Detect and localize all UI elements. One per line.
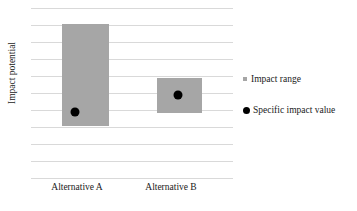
legend-item-specific-impact-value: Specific impact value (243, 105, 357, 115)
gridline (31, 127, 233, 128)
gridline (31, 178, 233, 179)
impact-range-bar (62, 24, 109, 126)
legend-item-label: Specific impact value (253, 105, 335, 115)
legend-item-label: Impact range (251, 74, 301, 84)
specific-impact-value-marker-icon (243, 107, 250, 114)
gridline (31, 144, 233, 145)
specific-impact-value-point (174, 91, 183, 100)
x-axis-tick-label: Alternative A (29, 182, 125, 192)
specific-impact-value-point (71, 108, 80, 117)
chart-figure: Impact potential Alternative AAlternativ… (0, 0, 357, 211)
x-axis-tick-label: Alternative B (123, 182, 219, 192)
gridline (31, 161, 233, 162)
plot-area (31, 8, 233, 178)
impact-range-swatch-icon (243, 77, 247, 81)
legend-item-impact-range: Impact range (243, 74, 357, 84)
y-axis-title: Impact potential (7, 3, 17, 143)
chart-legend: Impact range Specific impact value (243, 74, 357, 115)
gridline (31, 8, 233, 9)
